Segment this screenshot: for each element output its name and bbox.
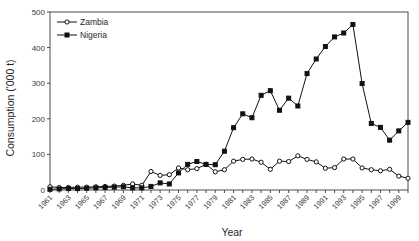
chart-legend: ZambiaNigeria [57, 17, 109, 40]
x-tick-label: 1991 [312, 193, 330, 211]
data-point-marker [131, 186, 135, 190]
data-point-marker [103, 186, 107, 190]
data-point-marker [149, 169, 153, 173]
data-point-marker [186, 162, 190, 166]
x-tick-label: 1965 [73, 193, 91, 211]
data-point-marker [305, 72, 309, 76]
x-tick-label: 1975 [165, 193, 183, 211]
data-point-marker [158, 181, 162, 185]
data-point-marker [397, 174, 401, 178]
data-series-layer [48, 22, 410, 191]
data-point-marker [342, 157, 346, 161]
data-point-marker [222, 149, 226, 153]
data-point-marker [177, 171, 181, 175]
data-point-marker [268, 89, 272, 93]
x-tick-label: 1961 [36, 193, 54, 211]
legend-item-nigeria[interactable]: Nigeria [57, 30, 107, 40]
y-axis-title: Consumption ('000 t) [4, 59, 16, 156]
y-tick-label: 0 [41, 186, 46, 195]
legend-marker-filled-square [65, 33, 69, 37]
legend-label: Zambia [80, 17, 109, 27]
y-tick-label: 100 [32, 150, 46, 159]
data-point-marker [388, 167, 392, 171]
x-tick-label: 1987 [275, 193, 293, 211]
data-point-marker [268, 167, 272, 171]
y-tick-label: 300 [32, 79, 46, 88]
data-point-marker [296, 154, 300, 158]
x-tick-label: 1977 [183, 193, 201, 211]
x-tick-label: 1983 [238, 193, 256, 211]
x-tick-label: 1999 [385, 193, 403, 211]
data-point-marker [167, 173, 171, 177]
data-point-marker [222, 168, 226, 172]
data-point-marker [149, 184, 153, 188]
data-point-marker [360, 82, 364, 86]
data-point-marker [213, 163, 217, 167]
data-point-marker [167, 182, 171, 186]
data-point-marker [85, 186, 89, 190]
data-point-marker [406, 120, 410, 124]
x-tick-label: 1971 [128, 193, 146, 211]
data-point-marker [277, 108, 281, 112]
data-point-marker [158, 173, 162, 177]
x-tick-label: 1979 [201, 193, 219, 211]
data-point-marker [94, 186, 98, 190]
data-point-marker [204, 162, 208, 166]
data-point-marker [76, 187, 80, 191]
data-point-marker [250, 116, 254, 120]
x-tick-label: 1973 [146, 193, 164, 211]
data-point-marker [231, 159, 235, 163]
data-point-marker [66, 187, 70, 191]
data-point-marker [406, 176, 410, 180]
data-point-marker [369, 168, 373, 172]
data-point-marker [112, 185, 116, 189]
data-point-marker [259, 93, 263, 97]
data-point-marker [323, 45, 327, 49]
x-tick-label: 1981 [220, 193, 238, 211]
data-point-marker [351, 157, 355, 161]
x-tick-label: 1967 [91, 193, 109, 211]
data-point-marker [369, 121, 373, 125]
data-point-marker [277, 159, 281, 163]
data-point-marker [333, 35, 337, 39]
data-point-marker [378, 169, 382, 173]
data-point-marker [342, 31, 346, 35]
x-axis-title: Year [221, 226, 243, 238]
x-tick-label: 1985 [257, 193, 275, 211]
data-point-marker [314, 57, 318, 61]
y-tick-label: 200 [32, 115, 46, 124]
y-tick-label: 400 [32, 44, 46, 53]
data-point-marker [314, 160, 318, 164]
legend-item-zambia[interactable]: Zambia [57, 17, 109, 27]
data-point-marker [360, 166, 364, 170]
data-point-marker [305, 157, 309, 161]
x-axis-tick-labels: 1961196319651967196919711973197519771979… [36, 193, 403, 211]
line-chart: 0100200300400500 19611963196519671969197… [0, 0, 419, 241]
data-point-marker [296, 104, 300, 108]
data-point-marker [195, 167, 199, 171]
data-point-marker [259, 160, 263, 164]
data-point-marker [287, 96, 291, 100]
x-tick-label: 1989 [293, 193, 311, 211]
data-point-marker [378, 125, 382, 129]
legend-label: Nigeria [80, 30, 107, 40]
data-point-marker [332, 165, 336, 169]
legend-marker-open-circle [65, 20, 69, 24]
data-point-marker [213, 170, 217, 174]
x-tick-label: 1995 [348, 193, 366, 211]
data-point-marker [176, 166, 180, 170]
data-point-marker [48, 187, 52, 191]
data-point-marker [186, 168, 190, 172]
data-point-marker [397, 129, 401, 133]
data-point-marker [351, 22, 355, 26]
data-point-marker [323, 166, 327, 170]
data-point-marker [121, 185, 125, 189]
data-point-marker [388, 138, 392, 142]
y-axis-ticks: 0100200300400500 [32, 8, 50, 195]
chart-container: 0100200300400500 19611963196519671969197… [0, 0, 419, 241]
data-point-marker [287, 159, 291, 163]
data-point-marker [195, 160, 199, 164]
data-point-marker [232, 126, 236, 130]
x-tick-label: 1993 [330, 193, 348, 211]
data-point-marker [250, 157, 254, 161]
